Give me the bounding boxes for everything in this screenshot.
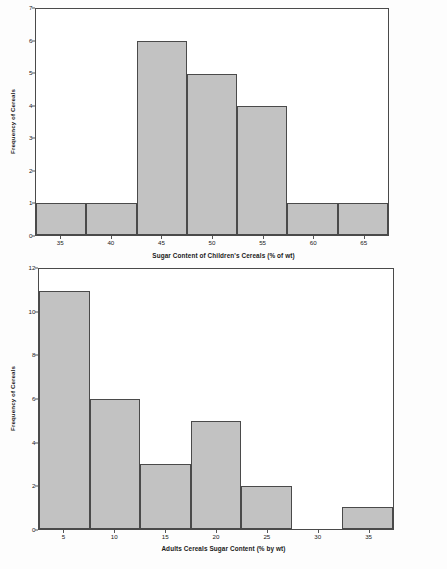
y-axis-tick-labels: 121086420 — [0, 263, 38, 530]
bar-cell — [241, 269, 292, 529]
bar-series — [36, 9, 388, 235]
chart-adults-cereals: Frequency of Cereals 121086420 510152025… — [0, 263, 447, 569]
x-axis-tick-label: 5 — [38, 534, 89, 540]
bar — [39, 291, 90, 529]
bar — [342, 507, 393, 529]
bar — [187, 74, 237, 235]
x-axis-tick-label: 45 — [136, 240, 187, 246]
bar — [86, 203, 136, 235]
x-axis-tick-label: 60 — [288, 240, 339, 246]
x-axis-tick-label: 35 — [343, 534, 394, 540]
bar — [137, 41, 187, 235]
x-axis-title: Adults Cereals Sugar Content (% by wt) — [0, 545, 447, 552]
bar-cell — [36, 9, 86, 235]
bar-cell — [338, 9, 388, 235]
y-axis-tick-labels: 76543210 — [0, 0, 35, 236]
plot-area — [35, 8, 389, 236]
bar-cell — [90, 269, 141, 529]
bar — [191, 421, 242, 529]
x-axis-tick-label: 50 — [187, 240, 238, 246]
bar — [338, 203, 388, 235]
bar-cell — [140, 269, 191, 529]
bar — [241, 486, 292, 529]
bar-series — [39, 269, 393, 529]
bar-cell — [342, 269, 393, 529]
bar — [36, 203, 86, 235]
x-axis-title: Sugar Content of Children's Cereals (% o… — [0, 252, 447, 259]
bar — [140, 464, 191, 529]
bar-cell — [86, 9, 136, 235]
x-axis-tick-label: 30 — [292, 534, 343, 540]
x-axis-tick-label: 25 — [241, 534, 292, 540]
x-axis-tick-label: 65 — [338, 240, 389, 246]
plot-area — [38, 268, 394, 530]
bar — [237, 106, 287, 235]
chart-childrens-cereals: Frequency of Cereals 76543210 3540455055… — [0, 0, 447, 263]
x-axis-tick-labels: 5101520253035 — [38, 534, 394, 540]
bar-cell — [292, 269, 343, 529]
x-axis-tick-label: 35 — [35, 240, 86, 246]
x-axis-tick-label: 55 — [237, 240, 288, 246]
x-axis-tick-label: 40 — [86, 240, 137, 246]
x-axis-tick-label: 10 — [89, 534, 140, 540]
x-axis-tick-label: 20 — [191, 534, 242, 540]
bar-cell — [137, 9, 187, 235]
bar-cell — [191, 269, 242, 529]
x-axis-tick-labels: 35404550556065 — [35, 240, 389, 246]
bar-cell — [39, 269, 90, 529]
bar-cell — [287, 9, 337, 235]
bar — [90, 399, 141, 529]
bar-cell — [187, 9, 237, 235]
x-axis-tick-label: 15 — [140, 534, 191, 540]
bar-cell — [237, 9, 287, 235]
bar — [287, 203, 337, 235]
